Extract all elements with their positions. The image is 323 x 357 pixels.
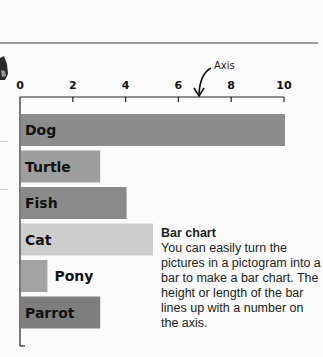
bar-dog [21, 114, 285, 146]
x-tick-label: 4 [122, 79, 130, 92]
x-tick-label: 10 [276, 79, 292, 92]
bar-pony [21, 260, 47, 292]
bar-label-parrot: Parrot [25, 305, 75, 321]
bar-label-dog: Dog [25, 122, 56, 138]
annotation-arrow [199, 68, 211, 94]
x-tick-label: 8 [227, 79, 235, 92]
caption-title: Bar chart [161, 226, 323, 241]
x-tick-label: 6 [175, 79, 183, 92]
bar-label-fish: Fish [25, 195, 58, 211]
annotation-label: Axis [214, 60, 235, 71]
caption-body: You can easily turn the pictures in a pi… [161, 241, 323, 331]
bar-label-turtle: Turtle [25, 159, 71, 175]
x-tick-label: 0 [16, 79, 24, 92]
bar-label-cat: Cat [25, 232, 52, 248]
x-axis-ticks: 0246810 [16, 79, 292, 102]
x-tick-label: 2 [69, 79, 77, 92]
bar-label-pony: Pony [54, 268, 93, 284]
caption: Bar chart You can easily turn the pictur… [161, 226, 323, 331]
